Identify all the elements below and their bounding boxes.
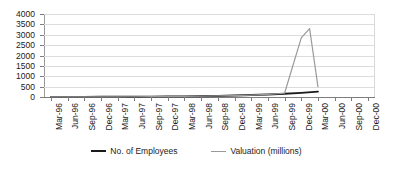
y-tick-label: 3000 bbox=[16, 31, 35, 40]
x-tick-mark bbox=[368, 97, 369, 101]
y-tick-label: 2000 bbox=[16, 51, 35, 60]
y-tick-label: 1000 bbox=[16, 72, 35, 81]
x-tick-label: Mar-96 bbox=[55, 103, 64, 130]
y-tick-label: 1500 bbox=[16, 62, 35, 71]
x-tick-label: Mar-98 bbox=[188, 103, 197, 130]
x-tick-mark bbox=[335, 97, 336, 101]
y-tick-label: 500 bbox=[21, 82, 35, 91]
chart-container: 40003500300025002000150010005000 Mar-96J… bbox=[0, 0, 393, 170]
legend-item[interactable]: No. of Employees bbox=[91, 147, 177, 156]
x-tick-label: Jun-96 bbox=[71, 103, 80, 129]
x-tick-mark bbox=[84, 97, 85, 101]
x-tick-mark bbox=[51, 97, 52, 101]
x-tick-mark bbox=[268, 97, 269, 101]
x-tick-mark bbox=[251, 97, 252, 101]
x-tick-mark bbox=[235, 97, 236, 101]
y-tick-label: 2500 bbox=[16, 41, 35, 50]
x-tick-label: Mar-97 bbox=[121, 103, 130, 130]
series-line-valuation bbox=[51, 29, 318, 97]
x-tick-label: Jun-99 bbox=[271, 103, 280, 129]
x-tick-mark bbox=[351, 97, 352, 101]
x-tick-label: Sep-97 bbox=[155, 103, 164, 130]
x-tick-label: Jun-00 bbox=[338, 103, 347, 129]
legend-swatch-icon bbox=[211, 151, 226, 152]
y-axis: 40003500300025002000150010005000 bbox=[0, 0, 40, 111]
x-tick-label: Sep-96 bbox=[88, 103, 97, 130]
x-tick-label: Sep-99 bbox=[288, 103, 297, 130]
x-tick-mark bbox=[201, 97, 202, 101]
x-tick-label: Dec-99 bbox=[305, 103, 314, 130]
y-tick-label: 3500 bbox=[16, 20, 35, 29]
legend-item[interactable]: Valuation (millions) bbox=[211, 147, 301, 156]
x-tick-mark bbox=[168, 97, 169, 101]
x-tick-mark bbox=[218, 97, 219, 101]
x-tick-mark bbox=[318, 97, 319, 101]
x-tick-mark bbox=[285, 97, 286, 101]
x-tick-label: Dec-98 bbox=[238, 103, 247, 130]
x-tick-mark bbox=[184, 97, 185, 101]
x-tick-mark bbox=[301, 97, 302, 101]
x-tick-label: Dec-96 bbox=[105, 103, 114, 130]
legend-label: No. of Employees bbox=[110, 147, 177, 156]
plot-area bbox=[44, 14, 375, 97]
x-tick-label: Dec-00 bbox=[372, 103, 381, 130]
x-tick-mark bbox=[151, 97, 152, 101]
x-tick-label: Sep-00 bbox=[355, 103, 364, 130]
legend-swatch-icon bbox=[91, 150, 106, 152]
x-tick-label: Sep-98 bbox=[221, 103, 230, 130]
y-tick-label: 0 bbox=[30, 93, 35, 102]
x-tick-label: Dec-97 bbox=[171, 103, 180, 130]
x-tick-mark bbox=[134, 97, 135, 101]
x-tick-mark bbox=[118, 97, 119, 101]
x-tick-mark bbox=[101, 97, 102, 101]
chart-legend: No. of EmployeesValuation (millions) bbox=[0, 143, 393, 159]
x-tick-label: Jun-97 bbox=[138, 103, 147, 129]
y-tick-label: 4000 bbox=[16, 10, 35, 19]
x-tick-label: Jun-98 bbox=[205, 103, 214, 129]
x-tick-mark bbox=[68, 97, 69, 101]
x-tick-label: Mar-00 bbox=[321, 103, 330, 130]
x-tick-label: Mar-99 bbox=[255, 103, 264, 130]
series-layer bbox=[44, 14, 375, 97]
legend-label: Valuation (millions) bbox=[230, 147, 301, 156]
